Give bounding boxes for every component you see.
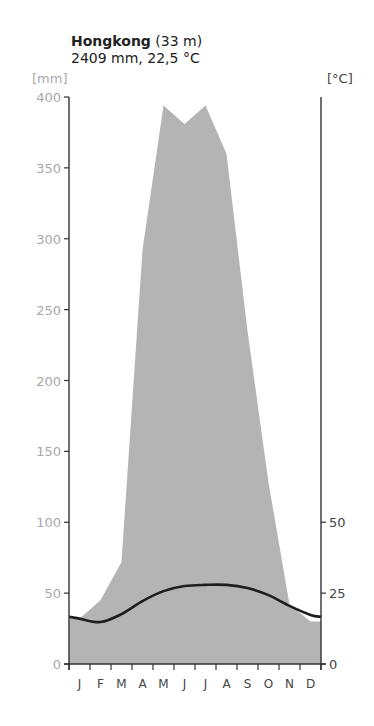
right-tick-label: 0 <box>329 657 337 672</box>
left-tick-label: 150 <box>36 444 61 459</box>
right-axis-unit: [°C] <box>327 71 353 86</box>
left-tick-label: 400 <box>36 90 61 105</box>
left-tick-label: 300 <box>36 232 61 247</box>
precipitation-fill <box>69 106 321 664</box>
month-label: N <box>285 677 294 691</box>
month-label: M <box>116 677 126 691</box>
left-tick-label: 0 <box>53 657 61 672</box>
left-tick-label: 50 <box>44 586 61 601</box>
month-label: A <box>222 677 231 691</box>
month-label: J <box>77 677 82 691</box>
month-label: A <box>138 677 147 691</box>
right-tick-label: 25 <box>329 586 346 601</box>
climate-chart: 05010015020025030035040002550JFMAMJJASON… <box>0 0 374 726</box>
left-tick-label: 100 <box>36 515 61 530</box>
month-label: O <box>264 677 273 691</box>
right-tick-label: 50 <box>329 515 346 530</box>
month-label: F <box>97 677 104 691</box>
month-label: D <box>306 677 315 691</box>
precipitation-area <box>69 106 321 664</box>
month-label: S <box>244 677 252 691</box>
left-axis-unit: [mm] <box>32 71 67 86</box>
month-label: M <box>158 677 168 691</box>
left-tick-label: 350 <box>36 161 61 176</box>
left-tick-label: 250 <box>36 303 61 318</box>
month-label: J <box>203 677 208 691</box>
month-label: J <box>182 677 187 691</box>
left-tick-label: 200 <box>36 374 61 389</box>
